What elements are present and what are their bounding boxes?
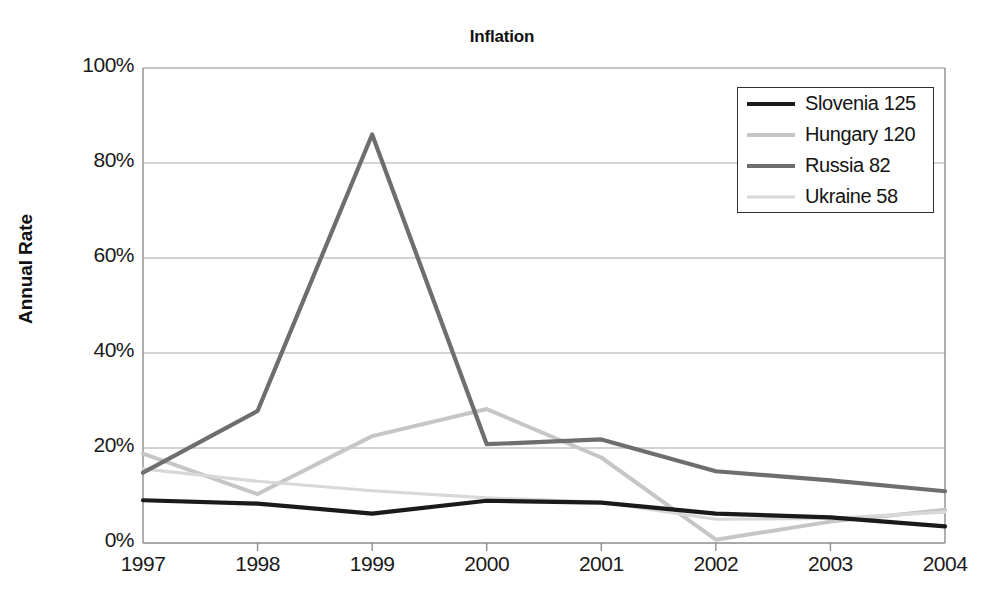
legend-label-slovenia: Slovenia 125 [805,92,916,115]
legend-label-ukraine: Ukraine 58 [805,185,898,208]
legend-swatch-ukraine [747,190,795,204]
legend-swatch-russia [747,159,795,173]
x-axis-tickmarks [258,543,831,551]
legend-item-hungary[interactable]: Hungary 120 [738,119,933,150]
legend-label-hungary: Hungary 120 [805,123,915,146]
series-line-ukraine [143,469,945,519]
legend-swatch-slovenia [747,97,795,111]
legend-item-russia[interactable]: Russia 82 [738,150,933,181]
legend-item-slovenia[interactable]: Slovenia 125 [738,88,933,119]
inflation-line-chart: Inflation Annual Rate 0%20%40%60%80%100%… [0,0,1004,613]
legend-swatch-hungary [747,128,795,142]
legend-item-ukraine[interactable]: Ukraine 58 [738,181,933,212]
legend-label-russia: Russia 82 [805,154,890,177]
series-line-hungary [143,409,945,540]
legend: Slovenia 125 Hungary 120 Russia 82 Ukrai… [737,87,934,213]
